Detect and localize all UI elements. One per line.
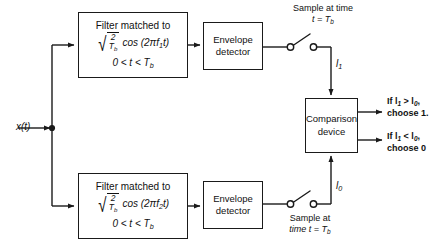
lower-filter-title: Filter matched to <box>96 181 170 192</box>
upper-switch-contact-right <box>310 44 316 50</box>
upper-filter-radical: √ 2 Tb <box>97 33 120 53</box>
upper-matched-filter-block: Filter matched to √ 2 Tb cos (2πf1t) 0 <… <box>78 12 188 78</box>
lower-filter-condition: 0 < t < Tb <box>112 218 153 231</box>
upper-switch-lever <box>293 34 310 46</box>
upper-filter-expression: √ 2 Tb cos (2πf1t) <box>97 33 169 53</box>
lower-switch-contact-right <box>310 201 316 207</box>
comparison-line2: device <box>318 126 345 138</box>
output-zero-action: choose 0 <box>387 143 426 155</box>
comparison-device-block: Comparison device <box>305 98 358 153</box>
output-decision-zero: If l1 < l0, choose 0 <box>387 131 426 155</box>
lower-filter-radical: √ 2 Tb <box>97 194 120 214</box>
lower-envelope-line1: Envelope <box>213 193 253 205</box>
upper-filter-condition: 0 < t < Tb <box>112 57 153 70</box>
upper-filter-title: Filter matched to <box>96 20 170 31</box>
output-one-action: choose 1. <box>387 108 429 120</box>
fsk-receiver-diagram: x(t) Filter matched to √ 2 Tb cos (2πf1t… <box>0 0 437 249</box>
upper-filter-cosine: cos (2πf1t) <box>122 37 169 50</box>
output-one-condition: If l1 > l0, <box>387 96 429 108</box>
upper-sampler-line1: Sample at time <box>281 3 365 14</box>
radical-sign-icon: √ <box>98 195 106 215</box>
lower-current-label: l0 <box>336 180 342 194</box>
lower-envelope-detector-block: Envelope detector <box>203 181 263 229</box>
upper-envelope-line2: detector <box>216 46 250 58</box>
lower-switch-lever <box>293 191 310 203</box>
lower-filter-cosine: cos (2πf2t) <box>122 198 169 211</box>
lower-sampler-line1: Sample at <box>268 213 352 224</box>
lower-envelope-line2: detector <box>216 205 250 217</box>
upper-current-label: l1 <box>336 58 342 72</box>
input-junction-dot <box>49 125 55 131</box>
upper-envelope-line1: Envelope <box>213 34 253 46</box>
upper-envelope-detector-block: Envelope detector <box>203 22 263 70</box>
lower-sampler-label: Sample at time t = Tb <box>268 213 352 236</box>
input-signal-label: x(t) <box>16 121 30 133</box>
comparison-line1: Comparison <box>306 113 357 125</box>
upper-switch-contact-left <box>287 44 293 50</box>
upper-sampler-label: Sample at time t = Tb <box>281 3 365 26</box>
radical-sign-icon: √ <box>98 34 106 54</box>
lower-filter-expression: √ 2 Tb cos (2πf2t) <box>97 194 169 214</box>
upper-filter-radicand-den: Tb <box>109 42 118 52</box>
lower-switch-contact-left <box>287 201 293 207</box>
lower-filter-radicand-den: Tb <box>109 203 118 213</box>
output-zero-condition: If l1 < l0, <box>387 131 426 143</box>
output-decision-one: If l1 > l0, choose 1. <box>387 96 429 120</box>
lower-matched-filter-block: Filter matched to √ 2 Tb cos (2πf2t) 0 <… <box>78 173 188 239</box>
lower-sampler-line2: time t = Tb <box>268 224 352 236</box>
upper-sampler-line2: t = Tb <box>281 14 365 26</box>
